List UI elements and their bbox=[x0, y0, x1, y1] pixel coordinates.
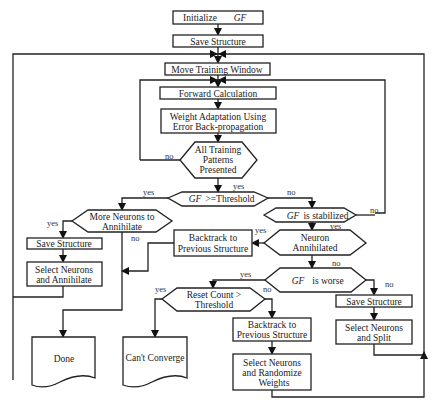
decision-all-training-patterns: All Training Patterns Presented bbox=[180, 142, 257, 178]
node-save-structure-1: Save Structure bbox=[173, 35, 263, 47]
terminal-done: Done bbox=[32, 337, 95, 387]
svg-text:no: no bbox=[332, 258, 341, 268]
svg-text:Previous Structure: Previous Structure bbox=[178, 244, 248, 254]
node-backtrack-2: Backtrack to Previous Structure bbox=[233, 318, 311, 341]
svg-text:>=Threshold: >=Threshold bbox=[205, 194, 254, 204]
node-select-split: Select Neurons and Split bbox=[336, 320, 412, 344]
svg-text:Save Structure: Save Structure bbox=[346, 297, 402, 307]
svg-text:yes: yes bbox=[330, 221, 341, 231]
svg-text:Move Training Window: Move Training Window bbox=[171, 65, 262, 75]
svg-text:Backtrack to: Backtrack to bbox=[248, 320, 297, 330]
svg-text:Select Neurons: Select Neurons bbox=[35, 265, 93, 275]
svg-text:Annihilated: Annihilated bbox=[293, 243, 338, 253]
svg-text:GF: GF bbox=[189, 194, 202, 204]
svg-text:Initialize: Initialize bbox=[183, 13, 217, 23]
svg-text:Select Neurons: Select Neurons bbox=[345, 323, 403, 333]
node-forward-calculation: Forward Calculation bbox=[160, 87, 276, 99]
node-move-training-window: Move Training Window bbox=[165, 63, 270, 75]
decision-more-neurons: More Neurons to Annihilate bbox=[72, 210, 172, 232]
terminal-cant-converge: Can't Converge bbox=[123, 337, 187, 387]
node-backtrack-1: Backtrack to Previous Structure bbox=[174, 230, 252, 256]
svg-text:Patterns: Patterns bbox=[203, 155, 234, 165]
svg-text:GF: GF bbox=[292, 276, 305, 286]
node-initialize: Initialize GF bbox=[173, 11, 263, 24]
svg-text:no: no bbox=[287, 187, 296, 197]
decision-gf-stabilized: GF is stabilized bbox=[264, 208, 356, 222]
svg-text:yes: yes bbox=[143, 187, 154, 197]
node-select-randomize: Select Neurons and Randomize Weights bbox=[233, 354, 311, 390]
svg-text:is worse: is worse bbox=[312, 276, 343, 286]
svg-text:no: no bbox=[165, 151, 174, 161]
decision-neuron-annihilated: Neuron Annihilated bbox=[264, 230, 366, 255]
svg-text:no: no bbox=[131, 233, 140, 243]
svg-text:GF: GF bbox=[234, 13, 247, 23]
node-save-structure-3: Save Structure bbox=[336, 295, 412, 307]
svg-text:Done: Done bbox=[54, 354, 75, 364]
svg-text:yes: yes bbox=[255, 225, 266, 235]
svg-text:yes: yes bbox=[155, 284, 166, 294]
node-save-structure-2: Save Structure bbox=[27, 238, 102, 249]
svg-text:Error Back-propagation: Error Back-propagation bbox=[173, 122, 264, 132]
svg-text:Neuron: Neuron bbox=[301, 233, 330, 243]
svg-text:no: no bbox=[370, 205, 379, 215]
svg-text:Threshold: Threshold bbox=[195, 300, 234, 310]
svg-text:More Neurons to: More Neurons to bbox=[90, 212, 155, 222]
svg-text:and Annihilate: and Annihilate bbox=[36, 275, 92, 285]
svg-text:Backtrack to: Backtrack to bbox=[189, 233, 238, 243]
svg-text:no: no bbox=[385, 279, 394, 289]
decision-gf-worse: GF is worse bbox=[265, 268, 366, 292]
svg-text:Forward Calculation: Forward Calculation bbox=[179, 89, 258, 99]
flowchart: Initialize GF Save Structure Move Traini… bbox=[0, 0, 443, 409]
node-select-annihilate: Select Neurons and Annihilate bbox=[27, 262, 102, 286]
node-weight-adaptation: Weight Adaptation Using Error Back-propa… bbox=[161, 109, 276, 133]
svg-text:Select Neurons: Select Neurons bbox=[243, 358, 301, 368]
svg-text:yes: yes bbox=[233, 181, 244, 191]
svg-text:Save Structure: Save Structure bbox=[36, 239, 92, 249]
svg-text:Presented: Presented bbox=[200, 165, 237, 175]
svg-text:GF: GF bbox=[287, 211, 300, 221]
svg-text:and Split: and Split bbox=[357, 333, 391, 343]
svg-text:is stabilized: is stabilized bbox=[303, 211, 348, 221]
svg-text:no: no bbox=[263, 284, 272, 294]
svg-text:yes: yes bbox=[240, 269, 251, 279]
decision-gf-threshold: GF >=Threshold bbox=[168, 192, 268, 206]
svg-text:Weights: Weights bbox=[259, 378, 290, 388]
svg-text:Previous Structure: Previous Structure bbox=[237, 330, 307, 340]
svg-text:Reset Count >: Reset Count > bbox=[187, 290, 241, 300]
decision-reset-count: Reset Count > Threshold bbox=[162, 288, 265, 311]
svg-text:Weight Adaptation Using: Weight Adaptation Using bbox=[170, 112, 267, 122]
svg-text:Annihilate: Annihilate bbox=[102, 222, 142, 232]
svg-text:All Training: All Training bbox=[195, 145, 242, 155]
svg-text:Save Structure: Save Structure bbox=[190, 37, 246, 47]
svg-text:and Randomize: and Randomize bbox=[242, 368, 301, 378]
svg-text:yes: yes bbox=[47, 218, 58, 228]
svg-text:Can't Converge: Can't Converge bbox=[126, 353, 185, 363]
